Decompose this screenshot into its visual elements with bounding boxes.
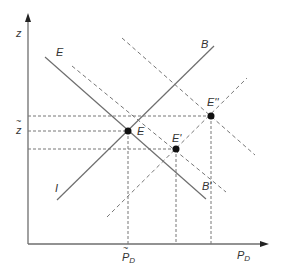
x-axis-arrow-icon	[260, 241, 269, 247]
curve-label-i: I	[55, 183, 58, 194]
point-label-e-double-prime: E''	[207, 97, 219, 108]
curve-e-shifted-dashed	[72, 66, 226, 192]
p-tilde-label: PD	[122, 252, 135, 265]
z-tilde-label: z	[16, 125, 22, 136]
x-axis-label-sub: D	[244, 254, 250, 263]
diagram-svg	[0, 0, 281, 277]
y-axis-label: z	[16, 28, 22, 39]
point-e	[125, 128, 132, 135]
curve-label-b-prime: B'	[202, 181, 211, 192]
point-e-prime	[173, 146, 180, 153]
curve-e-upper-dashed	[122, 38, 255, 155]
diagram-canvas: z PD z PD E B I B' E E' E''	[0, 0, 281, 277]
curve-label-e: E	[56, 47, 63, 58]
y-axis-arrow-icon	[25, 13, 31, 22]
point-label-e: E	[137, 126, 144, 137]
p-tilde-sub: D	[129, 256, 135, 265]
point-label-e-prime: E'	[172, 133, 181, 144]
point-e-double-prime	[208, 113, 215, 120]
curve-label-b: B	[201, 39, 208, 50]
z-tilde-text: z	[16, 125, 22, 136]
p-tilde-text: P	[122, 252, 129, 263]
curve-b-solid	[57, 46, 214, 200]
x-axis-label: PD	[237, 250, 250, 263]
